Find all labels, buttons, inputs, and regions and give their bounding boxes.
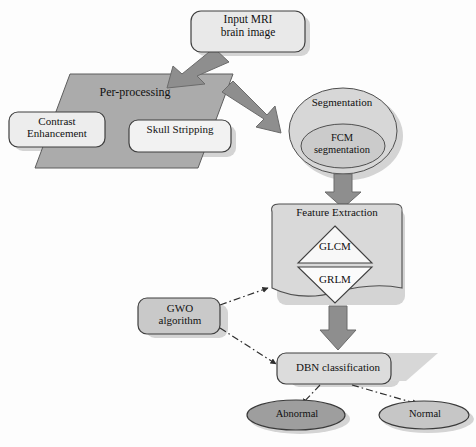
- node-abnormal: [247, 400, 345, 430]
- node-normal: [379, 401, 469, 429]
- node-skull-stripping: [129, 120, 231, 152]
- node-segmentation: [289, 88, 397, 174]
- node-input-mri: [191, 11, 305, 52]
- arrow-preprocessing-to-segmentation: [222, 81, 281, 133]
- node-contrast-enhancement: [9, 112, 105, 147]
- node-dbn-classification: [277, 353, 391, 384]
- flowchart-diagram: Input MRI brain image Per-processing Con…: [0, 0, 476, 447]
- diagram-canvas: [0, 0, 476, 447]
- node-gwo: [138, 298, 220, 334]
- arrow-feature-to-dbn: [320, 306, 356, 350]
- node-fcm-segmentation: [301, 124, 385, 168]
- edge-dbn-to-normal: [352, 385, 418, 404]
- edge-gwo-to-feature: [220, 288, 268, 305]
- edge-gwo-to-dbn: [220, 328, 276, 364]
